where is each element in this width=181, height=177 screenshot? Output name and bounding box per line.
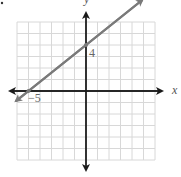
corner-dot [1, 2, 3, 4]
y-intercept-point [84, 43, 88, 47]
y-intercept-label: 4 [89, 47, 95, 59]
coordinate-plane [0, 0, 181, 177]
x-intercept-label: −5 [28, 92, 41, 104]
data-line-lower-arrow [16, 0, 143, 101]
x-axis-label: x [172, 84, 177, 96]
y-axis-label: y [84, 0, 89, 5]
